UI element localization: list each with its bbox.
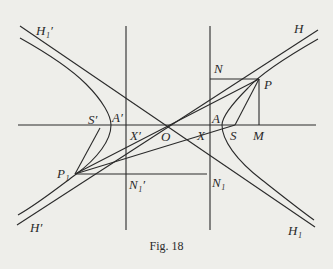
label-P: P bbox=[264, 78, 272, 91]
label-S-prime: S′ bbox=[88, 113, 97, 126]
label-X-prime: X′ bbox=[130, 129, 141, 142]
figure-caption: Fig. 18 bbox=[0, 239, 333, 254]
label-A-prime: A′ bbox=[112, 111, 123, 124]
label-P1: P₁ bbox=[57, 167, 69, 180]
label-H-prime: H′ bbox=[30, 221, 42, 234]
label-O: O bbox=[161, 130, 170, 143]
label-N1: N₁ bbox=[212, 176, 225, 189]
hyperbola-figure: H₁′ H N P S′ A′ X′ O X A S M P₁ N₁′ N₁ H… bbox=[0, 0, 333, 269]
label-N1-prime: N₁′ bbox=[129, 178, 145, 191]
asymptote-H-Hprime bbox=[17, 30, 318, 225]
label-M: M bbox=[253, 129, 264, 142]
label-N: N bbox=[214, 62, 223, 75]
label-A: A bbox=[212, 112, 220, 125]
segment-PS bbox=[235, 79, 259, 125]
label-X: X bbox=[197, 129, 205, 142]
label-H1-prime: H₁′ bbox=[36, 24, 53, 37]
label-H: H bbox=[294, 22, 303, 35]
label-H1: H₁ bbox=[288, 224, 302, 237]
label-S: S bbox=[230, 129, 237, 142]
hyperbola-left-branch bbox=[18, 38, 111, 215]
